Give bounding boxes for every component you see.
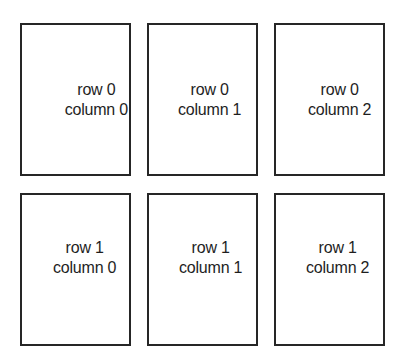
cell-label: row 1 column 0 xyxy=(53,238,116,278)
cell-row-text: row 0 xyxy=(178,80,241,100)
cell-row-text: row 0 xyxy=(65,80,128,100)
cell-label: row 1 column 1 xyxy=(179,238,242,278)
cell-row-text: row 1 xyxy=(179,238,242,258)
cell-column-text: column 0 xyxy=(53,258,116,278)
cell-column-text: column 0 xyxy=(65,100,128,120)
cell-row-text: row 0 xyxy=(308,80,371,100)
cell-column-text: column 2 xyxy=(306,258,369,278)
cell-column-text: column 2 xyxy=(308,100,371,120)
grid-cell-row1-col1: row 1 column 1 xyxy=(147,193,258,346)
grid-cell-row0-col2: row 0 column 2 xyxy=(274,23,385,176)
grid-cell-row1-col2: row 1 column 2 xyxy=(274,193,385,346)
cell-label: row 1 column 2 xyxy=(306,238,369,278)
cell-label: row 0 column 2 xyxy=(308,80,371,120)
cell-column-text: column 1 xyxy=(179,258,242,278)
cell-column-text: column 1 xyxy=(178,100,241,120)
grid-cell-row1-col0: row 1 column 0 xyxy=(20,193,131,346)
cell-row-text: row 1 xyxy=(306,238,369,258)
cell-row-text: row 1 xyxy=(53,238,116,258)
cell-label: row 0 column 0 xyxy=(65,80,128,120)
grid-cell-row0-col1: row 0 column 1 xyxy=(147,23,258,176)
cell-label: row 0 column 1 xyxy=(178,80,241,120)
grid-cell-row0-col0: row 0 column 0 xyxy=(20,23,131,176)
